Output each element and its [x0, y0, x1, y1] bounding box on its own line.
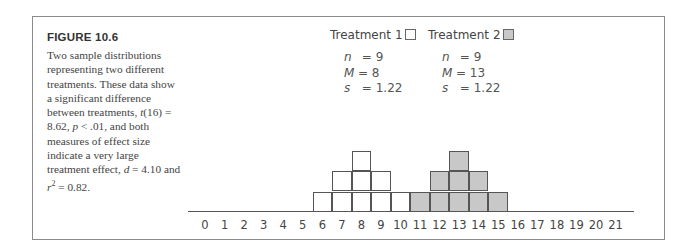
legend-treatment-2: Treatment 2: [428, 28, 514, 42]
x-tick-label: 15: [488, 218, 508, 232]
x-tick-label: 8: [351, 218, 371, 232]
caption-text: = 4.10 and: [129, 163, 180, 175]
legend-label: Treatment 2: [428, 28, 501, 42]
x-tick-label: 10: [391, 218, 411, 232]
x-tick-label: 4: [273, 218, 293, 232]
figure-caption: Two sample distributions representing tw…: [47, 48, 182, 194]
histogram-box: [469, 192, 489, 212]
x-tick-label: 20: [586, 218, 606, 232]
x-tick-label: 9: [371, 218, 391, 232]
histogram-box: [430, 192, 450, 212]
histogram-box: [488, 192, 508, 212]
histogram-box: [352, 192, 372, 212]
stat-s: s = 1.22: [442, 81, 500, 97]
histogram-box: [449, 171, 469, 191]
histogram-box: [352, 171, 372, 191]
x-tick-label: 0: [195, 218, 215, 232]
stats-treatment-1: n = 9 M= 8 s = 1.22: [344, 50, 402, 97]
stats-treatment-2: n = 9 M= 13 s = 1.22: [442, 50, 500, 97]
x-tick-label: 11: [410, 218, 430, 232]
x-tick-label: 12: [430, 218, 450, 232]
x-tick-label: 6: [312, 218, 332, 232]
histogram-box: [449, 151, 469, 171]
stat-n: n = 9: [442, 50, 500, 66]
histogram-box: [410, 192, 430, 212]
stat-m: M= 8: [344, 66, 402, 82]
x-axis-line: [188, 211, 634, 212]
histogram-box: [391, 192, 411, 212]
histogram-box: [332, 192, 352, 212]
white-swatch-icon: [405, 29, 416, 40]
x-tick-label: 17: [527, 218, 547, 232]
x-tick-label: 18: [547, 218, 567, 232]
x-tick-label: 19: [566, 218, 586, 232]
histogram-box: [449, 192, 469, 212]
stat-s: s = 1.22: [344, 81, 402, 97]
histogram-box: [313, 192, 333, 212]
histogram-box: [371, 171, 391, 191]
gray-swatch-icon: [503, 29, 514, 40]
figure-title: FIGURE 10.6: [47, 31, 118, 43]
x-tick-label: 5: [293, 218, 313, 232]
x-tick-label: 3: [254, 218, 274, 232]
x-tick-label: 21: [606, 218, 626, 232]
x-tick-label: 2: [234, 218, 254, 232]
x-tick-label: 14: [469, 218, 489, 232]
stat-n: n = 9: [344, 50, 402, 66]
histogram-box: [352, 151, 372, 171]
x-tick-label: 7: [332, 218, 352, 232]
caption-text: = 0.82.: [55, 180, 90, 192]
histogram-box: [332, 171, 352, 191]
histogram-box: [371, 192, 391, 212]
x-tick-label: 1: [215, 218, 235, 232]
histogram-box: [430, 171, 450, 191]
histogram-box: [469, 171, 489, 191]
x-tick-label: 16: [508, 218, 528, 232]
x-tick-label: 13: [449, 218, 469, 232]
stat-m: M= 13: [442, 66, 500, 82]
legend-label: Treatment 1: [330, 28, 403, 42]
legend-treatment-1: Treatment 1: [330, 28, 416, 42]
